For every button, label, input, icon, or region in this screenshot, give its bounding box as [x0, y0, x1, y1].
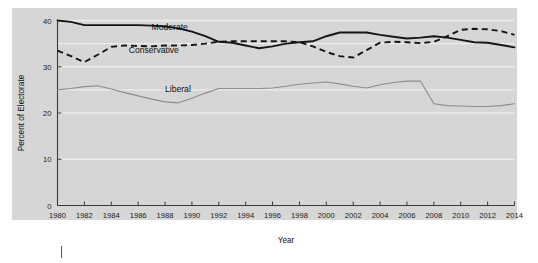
series-label-liberal: Liberal [165, 84, 191, 94]
x-tick-label-2014: 2014 [506, 211, 523, 220]
x-tick-label-1986: 1986 [130, 211, 147, 220]
y-axis-title: Percent of Electorate [17, 74, 26, 151]
series-line-liberal [58, 81, 515, 106]
line-chart: ModerateConservativeLiberal 198019821984… [0, 0, 538, 263]
x-axis-title: Year [278, 236, 295, 245]
x-tick-label-1984: 1984 [103, 211, 120, 220]
x-tick-label-1994: 1994 [237, 211, 254, 220]
x-tick-label-1992: 1992 [210, 211, 227, 220]
figure-container: ModerateConservativeLiberal 198019821984… [0, 0, 538, 263]
y-tick-label-40: 40 [43, 17, 51, 26]
series-label-moderate: Moderate [152, 22, 189, 32]
x-tick-label-2000: 2000 [318, 211, 335, 220]
y-tick-marks-group [58, 21, 62, 206]
y-tick-label-30: 30 [43, 63, 51, 72]
y-tick-label-20: 20 [43, 109, 51, 118]
y-tick-labels-group: 010203040 [43, 17, 51, 211]
x-tick-label-2010: 2010 [452, 211, 469, 220]
x-tick-label-2012: 2012 [479, 211, 496, 220]
x-tick-label-1998: 1998 [291, 211, 308, 220]
x-tick-marks-group [58, 202, 515, 206]
x-tick-label-2006: 2006 [399, 211, 416, 220]
x-tick-label-1996: 1996 [264, 211, 281, 220]
x-tick-label-1980: 1980 [49, 211, 66, 220]
series-lines-group [58, 21, 515, 107]
x-tick-label-2002: 2002 [345, 211, 362, 220]
y-tick-label-0: 0 [47, 202, 51, 211]
x-tick-label-1982: 1982 [76, 211, 93, 220]
series-line-conservative [58, 29, 515, 62]
series-label-conservative: Conservative [129, 45, 179, 55]
x-tick-label-1988: 1988 [157, 211, 174, 220]
y-tick-label-10: 10 [43, 155, 51, 164]
x-tick-label-2004: 2004 [372, 211, 389, 220]
series-labels-group: ModerateConservativeLiberal [129, 22, 191, 94]
x-tick-labels-group: 1980198219841986198819901992199419961998… [49, 211, 523, 220]
x-tick-label-1990: 1990 [183, 211, 200, 220]
x-tick-label-2008: 2008 [425, 211, 442, 220]
